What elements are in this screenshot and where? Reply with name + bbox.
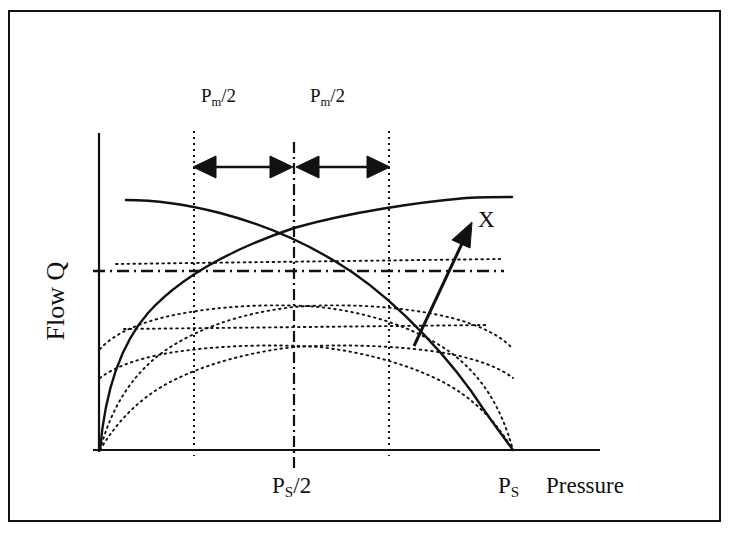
horizontal-dotted-lower (124, 325, 486, 329)
dotted-mid-characteristics (100, 305, 513, 450)
x-tick-label-ps-half-suffix: /2 (293, 473, 311, 498)
x-tick-label-ps-sub: S (511, 483, 519, 500)
falling-flow-dotted-mid (100, 305, 513, 450)
plot-canvas (0, 0, 740, 554)
span-label-pm-half-left-base: P (201, 85, 212, 106)
span-label-pm-half-left-suffix: /2 (221, 85, 236, 106)
span-arrow-right-head-left (296, 156, 319, 178)
span-arrow-left-head-left (193, 156, 216, 178)
x-axis-title: Pressure (546, 474, 624, 497)
span-label-pm-half-right-suffix: /2 (330, 85, 345, 106)
x-tick-label-ps-half: PS/2 (272, 474, 311, 497)
x-tick-label-ps-base: P (498, 473, 511, 498)
span-label-pm-half-left-sub: m (212, 95, 222, 109)
figure-page: Pm/2 Pm/2 PS/2 PS Pressure X Flow Q (0, 0, 740, 554)
falling-flow-dotted-low (100, 345, 513, 450)
x-annotation-arrow (414, 222, 472, 346)
rising-flow-solid (100, 197, 512, 450)
rising-flow-dotted-low (100, 345, 513, 450)
dotted-low-characteristics (100, 345, 513, 450)
x-tick-label-ps-half-base: P (272, 473, 285, 498)
solid-characteristics (100, 197, 513, 450)
span-label-pm-half-right-sub: m (321, 95, 331, 109)
span-label-pm-half-left: Pm/2 (201, 86, 236, 105)
span-arrows-group (193, 156, 390, 178)
rising-flow-dotted-mid (100, 305, 513, 450)
vertical-dotted-markers (194, 131, 389, 456)
horizontal-dotted-reference-lines (116, 259, 500, 329)
x-arrow-head (452, 222, 472, 248)
span-label-pm-half-right-base: P (310, 85, 321, 106)
span-label-pm-half-right: Pm/2 (310, 86, 345, 105)
x-arrow-shaft (414, 235, 466, 346)
span-arrow-right-head-right (367, 156, 390, 178)
y-axis-title: Flow Q (43, 236, 69, 366)
x-tick-label-ps-half-sub: S (285, 483, 293, 500)
x-tick-label-ps: PS (498, 474, 519, 497)
x-annotation-label: X (478, 208, 495, 231)
span-arrow-left-head-right (270, 156, 293, 178)
horizontal-dotted-upper (116, 259, 500, 264)
